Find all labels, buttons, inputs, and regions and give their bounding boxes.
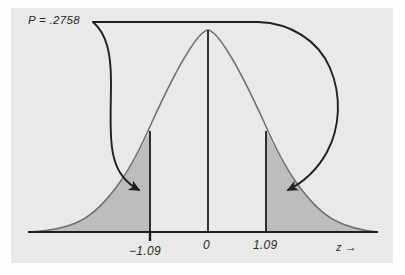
tick-label-zero: 0	[203, 238, 210, 252]
right-arrow-icon: →	[345, 240, 357, 254]
x-axis-label-group: z→	[336, 240, 357, 254]
probability-annotation-label: P = .2758	[28, 14, 80, 26]
tick-label-negative-109: −1.09	[129, 244, 161, 258]
x-axis-label-text: z	[336, 241, 342, 253]
tick-label-positive-109: 1.09	[253, 238, 278, 252]
shaded-right-tail	[266, 131, 378, 232]
normal-curve-chart	[0, 0, 405, 275]
figure-root: P = .2758 −1.09 0 1.09 z→	[0, 0, 405, 275]
shaded-left-tail	[28, 131, 150, 232]
